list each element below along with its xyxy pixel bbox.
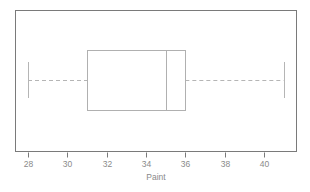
x-axis-tick-labels: 28303234363840 <box>24 159 270 169</box>
x-axis-ticks <box>29 153 265 158</box>
x-axis-tick-label: 36 <box>181 159 191 169</box>
x-axis-tick-label: 28 <box>24 159 34 169</box>
x-axis-tick-label: 38 <box>221 159 231 169</box>
boxplot-figure: 28303234363840 Paint <box>0 0 310 192</box>
x-axis-tick-label: 40 <box>260 159 270 169</box>
boxplot-canvas: 28303234363840 Paint <box>0 0 310 192</box>
box-group <box>88 51 186 111</box>
x-axis-title: Paint <box>146 172 166 182</box>
x-axis-tick-label: 34 <box>142 159 152 169</box>
x-axis-tick-label: 32 <box>103 159 113 169</box>
x-axis-tick-label: 30 <box>63 159 73 169</box>
box-iqr <box>88 51 186 111</box>
